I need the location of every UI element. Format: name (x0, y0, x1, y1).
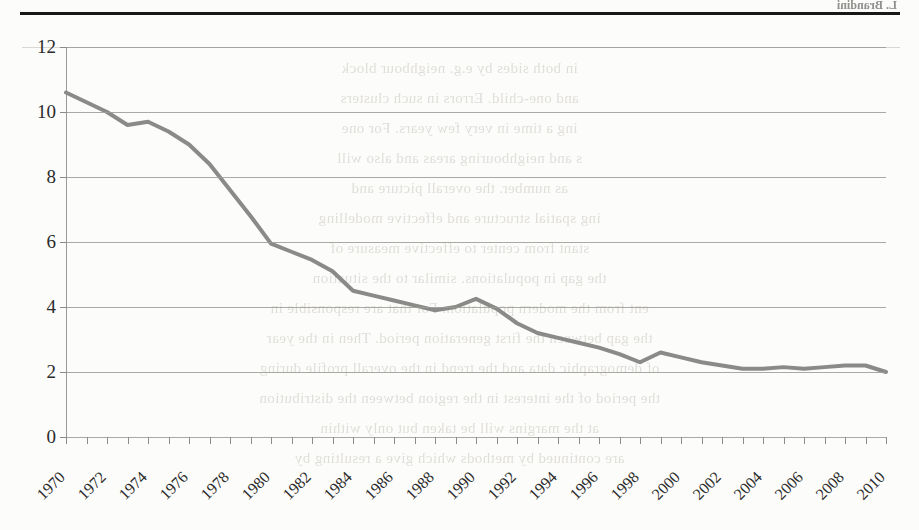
x-axis-tick (497, 437, 498, 444)
x-axis-label: 1984 (320, 468, 355, 503)
y-axis-label: 6 (12, 231, 56, 253)
x-axis-tick (148, 437, 149, 444)
x-axis-tick (661, 437, 662, 444)
x-axis-label: 1982 (279, 468, 314, 503)
x-axis-label: 1996 (566, 468, 601, 503)
y-gridline (66, 47, 886, 48)
x-axis-label: 1994 (525, 468, 560, 503)
x-axis-tick (743, 437, 744, 444)
x-axis-label: 2000 (648, 468, 683, 503)
x-axis-label: 1990 (443, 468, 478, 503)
y-gridline (66, 177, 886, 178)
x-axis-tick (579, 437, 580, 444)
y-axis-tick (60, 307, 67, 308)
x-axis-tick (886, 437, 887, 444)
x-axis-label: 1980 (238, 468, 273, 503)
x-axis-tick (189, 437, 190, 444)
y-gridline (66, 307, 886, 308)
x-axis-tick (476, 437, 477, 444)
x-axis-tick (702, 437, 703, 444)
x-axis-label: 1972 (74, 468, 109, 503)
y-axis-tick (60, 177, 67, 178)
x-axis-label: 2008 (812, 468, 847, 503)
y-axis-tick (60, 242, 67, 243)
y-axis-label: 8 (12, 166, 56, 188)
x-axis-tick (538, 437, 539, 444)
scanned-page: in both sides by e.g. neighbour blockand… (0, 0, 919, 530)
x-axis-label: 2010 (853, 468, 888, 503)
x-axis-label: 1986 (361, 468, 396, 503)
x-axis-label: 1988 (402, 468, 437, 503)
x-axis-tick (722, 437, 723, 444)
x-axis-tick (210, 437, 211, 444)
y-axis-tick (60, 372, 67, 373)
x-axis-label: 1992 (484, 468, 519, 503)
x-axis-tick (251, 437, 252, 444)
x-axis-tick (599, 437, 600, 444)
y-axis-label: 2 (12, 361, 56, 383)
y-axis-label: 10 (12, 101, 56, 123)
x-axis-tick (435, 437, 436, 444)
y-axis-label: 0 (12, 426, 56, 448)
x-axis-tick (804, 437, 805, 444)
x-axis-label: 1970 (33, 468, 68, 503)
y-gridline (66, 112, 886, 113)
x-axis-tick (558, 437, 559, 444)
x-axis-tick (825, 437, 826, 444)
x-axis-tick (169, 437, 170, 444)
x-axis-tick (681, 437, 682, 444)
y-axis-label: 12 (12, 36, 56, 58)
x-axis-tick (312, 437, 313, 444)
x-axis-label: 1978 (197, 468, 232, 503)
x-axis-tick (66, 437, 67, 444)
x-axis-label: 1998 (607, 468, 642, 503)
plot-area: 1970197219741976197819801982198419861988… (66, 47, 886, 437)
y-axis-tick (60, 47, 67, 48)
x-axis-tick (128, 437, 129, 444)
x-axis-tick (107, 437, 108, 444)
x-axis-tick (845, 437, 846, 444)
x-axis-tick (374, 437, 375, 444)
x-axis-tick (763, 437, 764, 444)
y-axis-label: 4 (12, 296, 56, 318)
x-axis-tick (353, 437, 354, 444)
x-axis-label: 1974 (115, 468, 150, 503)
x-axis-tick (640, 437, 641, 444)
x-axis-tick (271, 437, 272, 444)
x-axis-tick (292, 437, 293, 444)
x-axis-tick (230, 437, 231, 444)
y-gridline (66, 242, 886, 243)
x-axis-tick (517, 437, 518, 444)
x-axis-label: 1976 (156, 468, 191, 503)
x-axis-label: 2002 (689, 468, 724, 503)
y-axis-tick (60, 112, 67, 113)
y-gridline (66, 372, 886, 373)
x-axis-tick (333, 437, 334, 444)
line-chart: 1970197219741976197819801982198419861988… (0, 0, 919, 530)
x-axis-tick (866, 437, 867, 444)
x-axis-tick (784, 437, 785, 444)
x-axis-tick (394, 437, 395, 444)
x-axis-tick (415, 437, 416, 444)
x-axis-tick (87, 437, 88, 444)
x-axis-tick (620, 437, 621, 444)
x-axis-label: 2004 (730, 468, 765, 503)
x-axis-label: 2006 (771, 468, 806, 503)
x-axis-tick (456, 437, 457, 444)
